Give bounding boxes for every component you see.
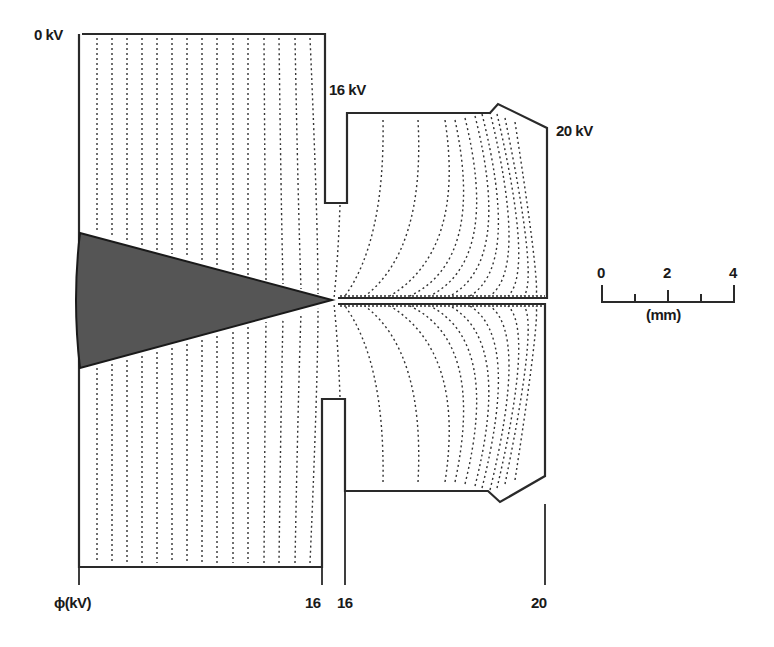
cone-emitter [76,233,332,368]
scale-tick-2: 2 [663,264,671,281]
label-20kv: 20 kV [556,122,593,139]
label-0kv: 0 kV [34,26,63,43]
scale-tick-0: 0 [597,264,605,281]
axis-tick-20: 20 [531,594,547,611]
label-16kv: 16 kV [329,81,366,98]
scale-unit: (mm) [646,306,681,323]
axis-ticks [79,491,545,585]
field-diagram [0,0,774,647]
axis-phi-label: ϕ(kV) [54,594,91,611]
equipotential-lines-right [334,112,545,490]
scale-tick-4: 4 [729,264,737,281]
axis-tick-16-right: 16 [337,594,353,611]
axis-tick-16-left: 16 [305,594,321,611]
scale-bar [602,285,734,302]
